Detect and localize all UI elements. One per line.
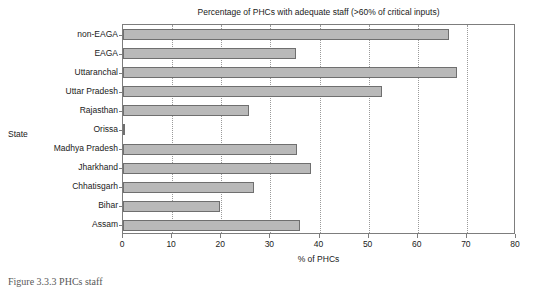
x-axis-tick-label: 0 — [120, 239, 125, 250]
bars-layer — [123, 25, 514, 233]
x-axis-tick — [368, 234, 369, 238]
x-axis-title: % of PHCs — [122, 254, 515, 265]
figure-caption: Figure 3.3.3 PHCs staff — [8, 276, 103, 288]
y-axis-tick-label: Madhya Pradesh — [8, 143, 118, 153]
bar[interactable] — [123, 220, 300, 231]
x-axis-tick — [220, 234, 221, 238]
bar-row[interactable] — [123, 44, 514, 63]
figure-container: Percentage of PHCs with adequate staff (… — [0, 0, 547, 288]
bar-row[interactable] — [123, 216, 514, 235]
bar-row[interactable] — [123, 120, 514, 139]
x-axis-tick-label: 60 — [412, 239, 421, 250]
x-axis-tick-label: 80 — [510, 239, 519, 250]
x-axis-tick — [515, 234, 516, 238]
y-axis-tick-label: non-EAGA — [8, 29, 118, 39]
bar-row[interactable] — [123, 82, 514, 101]
y-axis-tick-label: Chhatisgarh — [8, 181, 118, 191]
bar-row[interactable] — [123, 140, 514, 159]
bar[interactable] — [123, 163, 311, 174]
bar-row[interactable] — [123, 159, 514, 178]
x-axis-tick — [269, 234, 270, 238]
x-axis-tick — [122, 234, 123, 238]
y-axis-tick-label: Jharkhand — [8, 162, 118, 172]
bar[interactable] — [123, 29, 449, 40]
bar-row[interactable] — [123, 178, 514, 197]
bar[interactable] — [123, 105, 249, 116]
x-axis-tick — [171, 234, 172, 238]
x-axis-tick-label: 70 — [461, 239, 470, 250]
y-axis-tick-label: Rajasthan — [8, 105, 118, 115]
bar-row[interactable] — [123, 197, 514, 216]
y-axis-tick-label: Uttaranchal — [8, 67, 118, 77]
x-axis-tick-label: 30 — [265, 239, 274, 250]
x-axis-tick-label: 40 — [314, 239, 323, 250]
bar-row[interactable] — [123, 25, 514, 44]
y-axis-tick-label: Uttar Pradesh — [8, 86, 118, 96]
bar[interactable] — [123, 144, 297, 155]
x-axis-tick — [319, 234, 320, 238]
x-axis-tick-label: 20 — [216, 239, 225, 250]
bar[interactable] — [123, 201, 220, 212]
x-axis-tick — [417, 234, 418, 238]
y-axis-tick-label: Assam — [8, 219, 118, 229]
x-axis-tick-label: 50 — [363, 239, 372, 250]
x-axis-tick-labels: 01020304050607080 — [122, 239, 515, 251]
bar[interactable] — [123, 124, 125, 135]
y-axis-tick-label: EAGA — [8, 48, 118, 58]
bar[interactable] — [123, 86, 382, 97]
bar[interactable] — [123, 48, 296, 59]
bar-row[interactable] — [123, 63, 514, 82]
plot-area — [122, 24, 515, 234]
x-axis-tick-label: 10 — [166, 239, 175, 250]
y-axis-title: State — [8, 129, 28, 139]
y-axis-tick-label: Bihar — [8, 200, 118, 210]
chart-title: Percentage of PHCs with adequate staff (… — [122, 7, 515, 18]
bar[interactable] — [123, 182, 254, 193]
bar-row[interactable] — [123, 101, 514, 120]
bar[interactable] — [123, 67, 457, 78]
x-axis-tick — [466, 234, 467, 238]
